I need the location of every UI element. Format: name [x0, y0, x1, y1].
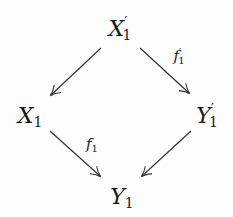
label-f1: f1 [86, 137, 98, 154]
node-base: Y [110, 184, 125, 209]
node-y1: Y1 [110, 186, 133, 210]
prime-mark: ′ [124, 14, 127, 30]
arrow-yprime-to-y [142, 131, 191, 176]
label-f1-prime: f′1 [173, 49, 184, 66]
node-y1-prime: Y′1 [196, 105, 218, 129]
subscript: 1 [33, 114, 42, 130]
arrow-xprime-to-x [51, 48, 101, 95]
node-x1: X1 [18, 105, 43, 129]
subscript: 1 [92, 143, 98, 154]
prime-mark: ′ [179, 46, 181, 57]
node-x1-prime: X′1 [109, 18, 132, 42]
node-base: X [18, 103, 34, 128]
prime-mark: ′ [211, 101, 214, 117]
subscript: 1 [125, 195, 134, 211]
